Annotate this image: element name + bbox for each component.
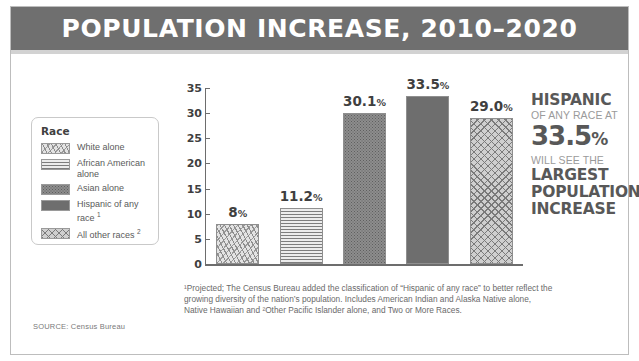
legend-item-african-american-alone: African American alone: [41, 158, 150, 179]
legend-swatch-all-other-races: [41, 228, 70, 239]
legend-label-all-other-races: All other races 2: [77, 227, 141, 241]
legend-label-all-other-text: All other races: [77, 230, 135, 240]
y-axis-tick-labels: 05101520253035: [178, 88, 202, 264]
bar-value-percent-sign-1: %: [313, 192, 323, 203]
callout-line-population: POPULATION: [531, 184, 627, 201]
legend-swatch-asian-alone: [41, 184, 70, 195]
bar-value-number-0: 8: [228, 204, 237, 220]
y-tick-mark-10: [205, 214, 210, 215]
bar-group-4: 29.0%: [470, 88, 513, 264]
y-tick-mark-15: [205, 189, 210, 190]
source-attribution: SOURCE: Census Bureau: [33, 322, 125, 331]
bar-value-percent-sign-0: %: [238, 208, 248, 219]
legend-panel: Race White alone African American alone …: [31, 117, 159, 245]
bar-value-number-4: 29.0: [470, 98, 503, 114]
bar-value-number-1: 11.2: [280, 188, 313, 204]
legend-label-asian-alone: Asian alone: [77, 183, 124, 194]
callout-value-number: 33.5: [531, 121, 591, 151]
callout-line-hispanic: HISPANIC: [531, 92, 627, 109]
bar-value-number-3: 33.5: [406, 76, 439, 92]
y-tick-mark-35: [205, 88, 210, 89]
bar-value-percent-sign-2: %: [376, 97, 386, 108]
bar-value-label-3: 33.5%: [406, 76, 449, 92]
bar-value-label-0: 8%: [228, 204, 247, 220]
header-shadow-strip: [11, 50, 628, 54]
bar-value-label-1: 11.2%: [280, 188, 323, 204]
page-title: POPULATION INCREASE, 2010–2020: [62, 14, 578, 43]
y-tick-label-0: 0: [194, 258, 202, 271]
plot-area: 8%11.2%30.1%33.5%29.0%: [206, 88, 523, 264]
bar-group-2: 30.1%: [343, 88, 386, 264]
y-tick-mark-30: [205, 113, 210, 114]
bar-value-percent-sign-4: %: [503, 102, 513, 113]
legend-swatch-african-american-alone: [41, 159, 70, 170]
y-tick-label-20: 20: [187, 157, 202, 170]
callout-line-increase: INCREASE: [531, 201, 627, 218]
bar-3[interactable]: [406, 96, 449, 264]
callout-line-largest: LARGEST: [531, 167, 627, 184]
legend-item-hispanic-any-race: Hispanic of any race 1: [41, 199, 150, 223]
callout-panel: HISPANIC OF ANY RACE AT 33.5% WILL SEE T…: [531, 92, 627, 218]
bar-1[interactable]: [280, 208, 323, 264]
bar-0[interactable]: [216, 224, 259, 264]
y-tick-mark-0: [205, 264, 210, 265]
legend-label-hispanic-any-race: Hispanic of any race 1: [77, 199, 150, 223]
y-tick-label-35: 35: [187, 82, 202, 95]
bar-value-number-2: 30.1: [343, 93, 376, 109]
bar-value-percent-sign-3: %: [440, 80, 450, 91]
callout-value: 33.5%: [531, 122, 627, 154]
legend-swatch-white-alone: [41, 143, 70, 154]
legend-label-african-american-alone: African American alone: [77, 158, 150, 179]
legend-label-hispanic-text: Hispanic of any race: [77, 199, 139, 223]
bar-chart: 05101520253035 8%11.2%30.1%33.5%29.0%: [178, 88, 523, 280]
header-bar: POPULATION INCREASE, 2010–2020: [11, 7, 628, 50]
legend-item-asian-alone: Asian alone: [41, 183, 150, 195]
y-tick-label-25: 25: [187, 132, 202, 145]
y-tick-mark-5: [205, 239, 210, 240]
legend-label-white-alone: White alone: [77, 142, 125, 153]
infographic-root: POPULATION INCREASE, 2010–2020 Race Whit…: [0, 0, 639, 361]
legend-swatch-hispanic-any-race: [41, 200, 70, 211]
bar-group-1: 11.2%: [280, 88, 323, 264]
y-tick-mark-20: [205, 163, 210, 164]
bar-group-3: 33.5%: [406, 88, 449, 264]
y-tick-label-5: 5: [194, 232, 202, 245]
legend-title: Race: [41, 125, 150, 137]
x-axis-line: [205, 264, 523, 266]
bar-value-label-2: 30.1%: [343, 93, 386, 109]
legend-item-all-other-races: All other races 2: [41, 227, 150, 241]
bar-value-label-4: 29.0%: [470, 98, 513, 114]
y-tick-mark-25: [205, 138, 210, 139]
bar-4[interactable]: [470, 118, 513, 264]
legend-footnote-marker-1: 1: [97, 211, 101, 218]
callout-value-percent-sign: %: [591, 129, 607, 149]
y-tick-label-30: 30: [187, 107, 202, 120]
legend-item-white-alone: White alone: [41, 142, 150, 154]
legend-footnote-marker-2: 2: [137, 228, 141, 235]
y-tick-label-10: 10: [187, 207, 202, 220]
footnote-text: ¹Projected; The Census Bureau added the …: [184, 283, 554, 317]
bar-2[interactable]: [343, 113, 386, 264]
y-tick-label-15: 15: [187, 182, 202, 195]
bar-group-0: 8%: [216, 88, 259, 264]
